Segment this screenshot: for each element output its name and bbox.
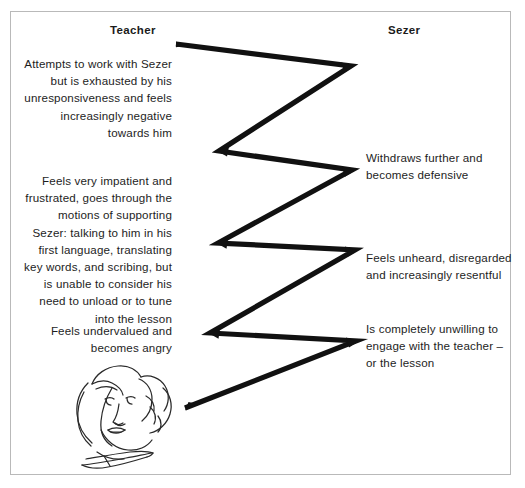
- teacher-note-3: Feels undervalued and becomes angry: [22, 322, 172, 356]
- sezer-note-1: Withdraws further and becomes defensive: [366, 149, 514, 183]
- column-heading-teacher: Teacher: [110, 24, 156, 36]
- teacher-note-2: Feels very impatient and frustrated, goe…: [22, 172, 172, 327]
- teacher-note-1: Attempts to work with Sezer but is exhau…: [22, 55, 172, 141]
- sezer-note-2: Feels unheard, disregarded and increasin…: [366, 249, 514, 283]
- sezer-note-3: Is completely unwilling to engage with t…: [366, 320, 514, 372]
- column-heading-sezer: Sezer: [388, 24, 420, 36]
- diagram-page: Teacher Sezer Attempts to work with Seze…: [0, 0, 525, 488]
